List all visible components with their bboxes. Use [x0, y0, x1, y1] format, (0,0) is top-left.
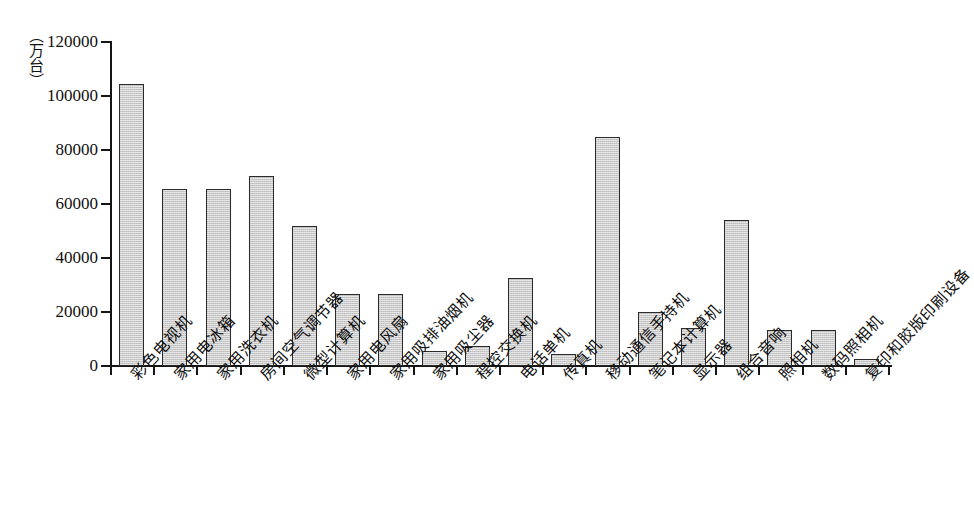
y-axis-tick: [101, 95, 110, 97]
y-axis-tick: [101, 149, 110, 151]
y-axis-tick-label: 20000: [12, 303, 98, 320]
y-axis-tick-labels: 020000400006000080000100000120000: [6, 42, 98, 366]
y-axis-tick-label: 80000: [12, 141, 98, 158]
x-axis-category-labels: 彩色电视机家用电冰箱家用洗衣机房间空气调节器微型计算机家用电风扇家用吸排油烟机家…: [0, 368, 903, 522]
y-axis-tick-label: 100000: [12, 87, 98, 104]
y-axis-tick: [101, 203, 110, 205]
y-axis-tick: [101, 257, 110, 259]
y-axis-tick: [101, 311, 110, 313]
bar: [119, 84, 144, 366]
y-axis-tick-label: 60000: [12, 195, 98, 212]
y-axis-tick: [101, 41, 110, 43]
y-axis-tick: [101, 365, 110, 367]
y-axis-tick-label: 40000: [12, 249, 98, 266]
y-axis-tick-label: 120000: [12, 33, 98, 50]
bar: [595, 137, 620, 367]
